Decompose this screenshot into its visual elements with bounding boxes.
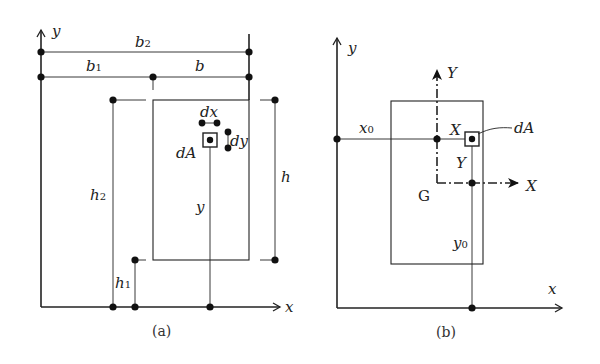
- label-y0: y0: [452, 234, 468, 252]
- caption-b: (b): [436, 324, 456, 340]
- label-dA-a: dA: [176, 144, 197, 162]
- x-axis-label-b: x: [548, 280, 557, 298]
- label-h: h: [281, 168, 291, 186]
- dim-dot: [468, 179, 475, 186]
- label-dy: dy: [230, 132, 249, 150]
- label-h2: h2: [90, 186, 106, 204]
- label-b: b: [195, 57, 205, 75]
- label-b1: b1: [86, 57, 102, 75]
- dim-dot: [271, 96, 278, 103]
- dim-dot: [109, 303, 116, 310]
- label-coord-X: X: [449, 121, 462, 139]
- label-x0: x0: [359, 119, 374, 137]
- dim-dot: [433, 135, 440, 142]
- dim-dot: [271, 256, 278, 263]
- label-coord-Y: Y: [456, 154, 468, 172]
- dim-dot: [206, 303, 213, 310]
- label-h1: h1: [115, 274, 131, 292]
- dim-dot: [109, 96, 116, 103]
- x-axis-label-a: x: [285, 298, 294, 316]
- dim-dot: [149, 73, 156, 80]
- y-axis-label-b: y: [347, 39, 357, 57]
- y-axis-label-a: y: [51, 22, 61, 40]
- dA-center-dot: [469, 136, 475, 142]
- diagram-canvas: y x b2 b1 b h2 h1: [0, 0, 600, 364]
- label-centroid-Y: Y: [447, 64, 459, 82]
- dim-dot: [468, 304, 475, 311]
- dim-dot: [245, 48, 252, 55]
- label-b2: b2: [135, 33, 151, 51]
- label-centroid-X: X: [525, 177, 538, 195]
- label-y: y: [195, 198, 205, 216]
- caption-a: (a): [152, 323, 171, 339]
- dim-dot: [333, 135, 340, 142]
- dim-dot: [37, 73, 44, 80]
- dim-dot: [245, 73, 252, 80]
- panel-a: y x b2 b1 b h2 h1: [37, 22, 294, 339]
- dim-dot: [37, 48, 44, 55]
- label-dx: dx: [200, 103, 219, 121]
- panel-b: y x Y X G x0 X dA Y y0 (b): [333, 38, 562, 340]
- dim-dot: [131, 303, 138, 310]
- dim-dot: [131, 256, 138, 263]
- label-dA-b: dA: [514, 119, 535, 137]
- dA-center-dot: [207, 137, 213, 143]
- label-centroid-G: G: [418, 187, 430, 205]
